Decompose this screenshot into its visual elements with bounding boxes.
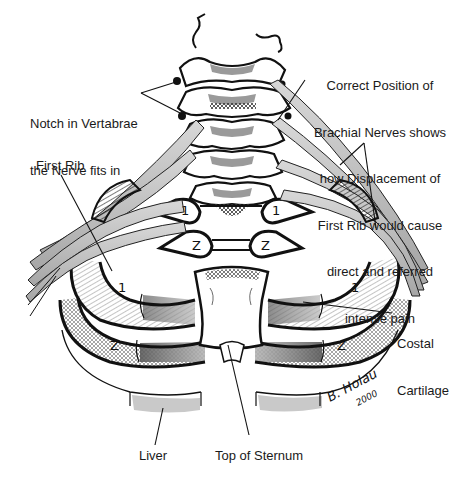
cervical-spine [173,14,292,216]
rib-2-left-number: Z [110,338,119,353]
liver-label: Liver [139,448,167,464]
first-rib-left [71,258,195,329]
notch-leader-lower [141,93,182,114]
liver-leader [155,408,163,445]
svg-text:2000: 2000 [354,388,379,408]
rib-1-left-number: 1 [118,280,126,295]
rib-head-1-left: 1 [181,203,189,218]
rib-head-2-right: Z [261,238,270,253]
sternum-label: Top of Sternum [215,448,303,464]
rib-head-2-left: Z [192,238,201,253]
costal-cartilage-label: Costal Cartilage [397,305,449,429]
artist-signature: B. Holau 2000 [324,366,379,408]
anatomy-illustration: 1 1 Z Z 1 1 Z Z B. Holau 2000 No [0,0,471,482]
first-rib-label: First Rib [36,158,84,174]
notch-leader-upper [141,82,176,93]
notch-label: Notch in Vertabrae the Nerve fits in [30,85,138,209]
rib-head-1-right: 1 [272,203,280,218]
